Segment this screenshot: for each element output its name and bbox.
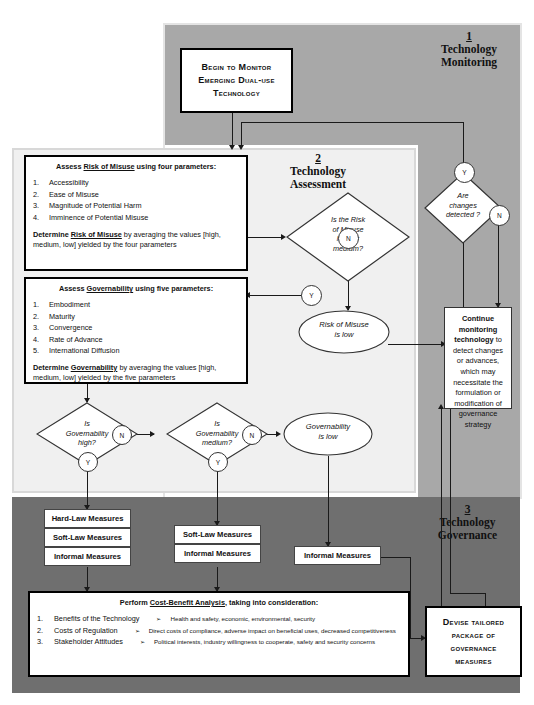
connector-devise-stub bbox=[410, 617, 411, 639]
devise-line2: package of bbox=[452, 630, 495, 640]
measure-label: Informal Measures bbox=[184, 549, 251, 558]
devise-line4: measures bbox=[455, 656, 491, 666]
gov-medium-yes[interactable]: Y bbox=[208, 452, 228, 472]
connector-feedback-top bbox=[241, 122, 464, 123]
devise-line3: governance bbox=[450, 643, 496, 653]
list-item-label: Imminence of Potential Misuse bbox=[49, 213, 148, 223]
section-2-line2: Assessment bbox=[290, 178, 346, 190]
cb-item-sub: ➢Political interests, industry willingne… bbox=[140, 637, 375, 647]
gov-heading: Assess Governability using five paramete… bbox=[33, 284, 239, 294]
list-item-number: 1. bbox=[33, 178, 49, 188]
continue-bold: Continue monitoring technology bbox=[454, 314, 497, 344]
cb-item-label: Benefits of the Technology bbox=[54, 614, 139, 624]
cost-benefit-analysis-box[interactable]: Perform Cost-Benefit Analysis, taking in… bbox=[28, 591, 410, 677]
section-1-line1: Technology bbox=[441, 43, 497, 55]
gov-high-yes[interactable]: Y bbox=[78, 452, 98, 472]
section-1-number: 1 bbox=[420, 30, 518, 43]
measure-box[interactable]: Informal Measures bbox=[44, 547, 131, 566]
cb-item-number: 1. bbox=[37, 614, 54, 624]
cost-benefit-list: 1.Benefits of the Technology➢Health and … bbox=[37, 614, 401, 647]
list-item: 1.Accessibility bbox=[33, 178, 239, 188]
cb-item-number: 3. bbox=[37, 637, 54, 647]
list-item-number: 2. bbox=[33, 312, 49, 322]
section-3-number: 3 bbox=[415, 503, 520, 516]
begin-line3: Technology bbox=[213, 88, 260, 98]
risk-decision-no[interactable]: N bbox=[338, 228, 359, 249]
continue-monitoring-box[interactable]: Continue monitoring technology to detect… bbox=[444, 307, 512, 409]
gov-tail: Determine Governability by averaging the… bbox=[33, 363, 239, 383]
cb-heading: Perform Cost-Benefit Analysis, taking in… bbox=[37, 598, 401, 608]
assess-governability-box[interactable]: Assess Governability using five paramete… bbox=[24, 277, 248, 384]
assess-risk-of-misuse-box[interactable]: Assess Risk of Misuse using four paramet… bbox=[24, 155, 248, 271]
list-item: 4.Imminence of Potential Misuse bbox=[33, 213, 239, 223]
section-2-title: 2 Technology Assessment bbox=[268, 152, 368, 191]
list-item-number: 4. bbox=[33, 335, 49, 345]
cb-item-label: Costs of Regulation bbox=[54, 626, 118, 636]
measure-box[interactable]: Soft-Law Measures bbox=[44, 528, 131, 547]
list-item: 3.Magnitude of Potential Harm bbox=[33, 201, 239, 211]
continue-rest: to detect changes or advances, which may… bbox=[453, 335, 503, 429]
risk-decision-yes[interactable]: Y bbox=[301, 285, 322, 306]
list-item: 4.Rate of Advance bbox=[33, 335, 239, 345]
cb-sub-label: Political interests, industry willingnes… bbox=[154, 637, 375, 647]
gov-medium-no[interactable]: N bbox=[242, 425, 262, 445]
connector-feedback-down bbox=[241, 122, 242, 147]
devise-tailored-package-box[interactable]: Devise tailored package of governance me… bbox=[425, 606, 522, 677]
begin-monitor-box[interactable]: Begin to Monitor Emerging Dual-use Techn… bbox=[180, 48, 293, 113]
connector-govlow-down bbox=[328, 456, 329, 546]
measure-box[interactable]: Soft-Law Measures bbox=[174, 525, 261, 544]
list-item-number: 1. bbox=[33, 300, 49, 310]
list-item-label: Magnitude of Potential Harm bbox=[49, 201, 141, 211]
list-item-number: 5. bbox=[33, 346, 49, 356]
cb-sub-label: Direct costs of compliance, adverse impa… bbox=[149, 626, 396, 636]
connector-start-to-risk bbox=[232, 113, 233, 147]
arrow-govhighN-to-govmed bbox=[150, 431, 155, 437]
changes-decision-yes[interactable]: Y bbox=[454, 162, 475, 183]
risk-tail: Determine Risk of Misuse by averaging th… bbox=[33, 230, 239, 250]
list-item-label: Convergence bbox=[49, 323, 92, 333]
measure-box[interactable]: Hard-Law Measures bbox=[44, 509, 131, 528]
list-item: 2.Maturity bbox=[33, 312, 239, 322]
measure-box[interactable]: Informal Measures bbox=[174, 544, 261, 563]
devise-line1: Devise tailored bbox=[443, 617, 504, 627]
section-3-line1: Technology bbox=[440, 516, 496, 528]
cb-item-label: Stakeholder Attitudes bbox=[54, 637, 123, 647]
changes-decision-no[interactable]: N bbox=[489, 205, 510, 226]
list-item-label: Ease of Misuse bbox=[49, 190, 99, 200]
list-item: 5.International Diffusion bbox=[33, 346, 239, 356]
section-2-number: 2 bbox=[268, 152, 368, 165]
list-item: 3.Stakeholder Attitudes➢Political intere… bbox=[37, 637, 401, 647]
gov-high-no[interactable]: N bbox=[112, 425, 132, 445]
connector-risklow-to-continue bbox=[388, 344, 446, 345]
list-item-number: 3. bbox=[33, 201, 49, 211]
section-3-title: 3 Technology Governance bbox=[415, 503, 520, 542]
gov-low-label: Governabilityis low bbox=[283, 422, 373, 442]
list-item: 3.Convergence bbox=[33, 323, 239, 333]
list-item: 2.Ease of Misuse bbox=[33, 190, 239, 200]
governability-parameter-list: 1.Embodiment2.Maturity3.Convergence4.Rat… bbox=[33, 300, 239, 356]
connector-devise-out-b bbox=[450, 593, 486, 594]
list-item-number: 2. bbox=[33, 190, 49, 200]
flowchart-canvas: 1 Technology Monitoring 2 Technology Ass… bbox=[0, 0, 534, 705]
connector-governance-up-a bbox=[441, 408, 442, 638]
bullet-arrow-icon: ➢ bbox=[135, 626, 149, 636]
cb-item-main: 3.Stakeholder Attitudes bbox=[37, 637, 123, 647]
risk-heading: Assess Risk of Misuse using four paramet… bbox=[33, 162, 239, 172]
arrow-govmedN-to-govlow bbox=[276, 431, 281, 437]
cb-item-main: 2.Costs of Regulation bbox=[37, 626, 118, 636]
section-2-line1: Technology bbox=[290, 165, 346, 177]
list-item: 1.Benefits of the Technology➢Health and … bbox=[37, 614, 401, 624]
measure-label: Informal Measures bbox=[54, 552, 121, 561]
list-item-label: Rate of Advance bbox=[49, 335, 103, 345]
measure-label: Informal Measures bbox=[304, 551, 371, 560]
connector-continue-to-changes bbox=[463, 236, 464, 308]
list-item-label: Embodiment bbox=[49, 300, 90, 310]
measure-box[interactable]: Informal Measures bbox=[294, 546, 381, 565]
connector-changesY-up bbox=[463, 122, 464, 166]
risk-low-label: Risk of Misuseis low bbox=[298, 320, 390, 340]
arrow-start-to-risk bbox=[229, 145, 235, 150]
arrow-governance-up-a bbox=[438, 404, 444, 409]
list-item-label: Maturity bbox=[49, 312, 75, 322]
connector-govhighY-down bbox=[87, 466, 88, 509]
list-item: 1.Embodiment bbox=[33, 300, 239, 310]
